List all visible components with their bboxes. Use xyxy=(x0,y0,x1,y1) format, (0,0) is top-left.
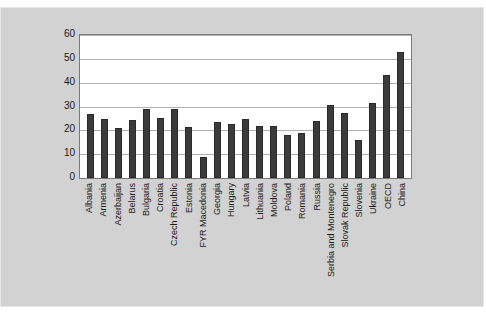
x-axis-tick-label: FYR Macedonia xyxy=(198,183,207,248)
x-axis-tick-label: Moldova xyxy=(269,183,278,217)
x-axis-tick-label: Russia xyxy=(312,183,321,211)
x-axis-tick-label: Ukraine xyxy=(369,183,378,214)
bar-slot xyxy=(281,35,295,178)
bar-slot xyxy=(154,35,168,178)
x-axis-tick-label: Slovenia xyxy=(355,183,364,218)
bar xyxy=(87,114,94,178)
x-axis-tick-label: Czech Republic xyxy=(170,183,179,246)
bar xyxy=(200,157,207,178)
x-axis-tick-label: OECD xyxy=(383,183,392,209)
bar-series xyxy=(80,35,411,178)
x-axis-tick-label: Albania xyxy=(85,183,94,213)
bar-slot xyxy=(125,35,139,178)
x-axis-tick-label: China xyxy=(397,183,406,207)
bar-slot xyxy=(323,35,337,178)
x-axis-tick-label: Hungary xyxy=(227,183,236,217)
x-axis-tick: Romania xyxy=(295,181,309,301)
y-axis-tick-label: 60 xyxy=(64,29,75,39)
x-axis-tick: Moldova xyxy=(267,181,281,301)
x-axis-tick: Latvia xyxy=(238,181,252,301)
x-axis-tick: Czech Republic xyxy=(167,181,181,301)
bar xyxy=(115,128,122,178)
x-axis-tick: Lithuania xyxy=(253,181,267,301)
bar-slot xyxy=(196,35,210,178)
bar xyxy=(101,119,108,178)
x-axis-tick-label: Bulgaria xyxy=(141,183,150,216)
bar xyxy=(157,118,164,178)
bar-slot xyxy=(140,35,154,178)
y-axis: 0102030405060 xyxy=(41,34,75,179)
bar xyxy=(129,120,136,178)
bar-slot xyxy=(224,35,238,178)
chart-figure: 0102030405060 AlbaniaArmeniaAzerbaijanBe… xyxy=(0,7,484,307)
x-axis: AlbaniaArmeniaAzerbaijanBelarusBulgariaC… xyxy=(79,181,412,301)
x-axis-tick: China xyxy=(395,181,409,301)
plot-area xyxy=(79,34,412,179)
bar-slot xyxy=(83,35,97,178)
bar-slot xyxy=(380,35,394,178)
x-axis-tick-label: Azerbaijan xyxy=(113,183,122,226)
x-axis-tick-label: Belarus xyxy=(127,183,136,214)
x-axis-tick: Poland xyxy=(281,181,295,301)
bar-slot xyxy=(111,35,125,178)
x-axis-tick: Croatia xyxy=(153,181,167,301)
x-axis-tick: Belarus xyxy=(125,181,139,301)
x-axis-tick: Armenia xyxy=(96,181,110,301)
bar xyxy=(171,109,178,178)
x-axis-tick-label: Lithuania xyxy=(255,183,264,220)
bar xyxy=(185,127,192,178)
x-axis-tick: Bulgaria xyxy=(139,181,153,301)
bar-slot xyxy=(210,35,224,178)
bar xyxy=(242,119,249,178)
x-axis-tick-label: Croatia xyxy=(156,183,165,212)
bar xyxy=(397,52,404,178)
y-axis-tick-label: 40 xyxy=(64,77,75,87)
x-axis-tick-label: Poland xyxy=(284,183,293,211)
bar-slot xyxy=(394,35,408,178)
x-axis-tick: Ukraine xyxy=(366,181,380,301)
x-axis-tick: Albania xyxy=(82,181,96,301)
bar xyxy=(256,126,263,178)
y-axis-tick-label: 30 xyxy=(64,101,75,111)
bar xyxy=(270,126,277,178)
y-axis-tick-label: 50 xyxy=(64,53,75,63)
bar xyxy=(284,135,291,178)
x-axis-tick: Georgia xyxy=(210,181,224,301)
x-axis-tick-label: Estonia xyxy=(184,183,193,213)
x-axis-tick: OECD xyxy=(381,181,395,301)
bar-slot xyxy=(366,35,380,178)
bar xyxy=(341,113,348,178)
bar-slot xyxy=(238,35,252,178)
bar xyxy=(383,75,390,178)
y-axis-tick-label: 10 xyxy=(64,148,75,158)
x-axis-tick-label: Slovak Republic xyxy=(341,183,350,248)
x-axis-tick: Hungary xyxy=(224,181,238,301)
x-axis-tick: Slovak Republic xyxy=(338,181,352,301)
bar xyxy=(313,121,320,178)
bar xyxy=(298,133,305,178)
bar-slot xyxy=(295,35,309,178)
x-axis-tick-label: Latvia xyxy=(241,183,250,207)
bar-slot xyxy=(267,35,281,178)
bar-slot xyxy=(253,35,267,178)
bar-slot xyxy=(168,35,182,178)
x-axis-tick-label: Romania xyxy=(298,183,307,219)
x-axis-tick: Slovenia xyxy=(352,181,366,301)
bar xyxy=(369,103,376,178)
x-axis-tick-label: Serbia and Montenegro xyxy=(326,183,335,277)
bar-slot xyxy=(309,35,323,178)
x-axis-tick: FYR Macedonia xyxy=(196,181,210,301)
x-axis-tick: Estonia xyxy=(182,181,196,301)
bar xyxy=(228,124,235,178)
x-axis-tick: Serbia and Montenegro xyxy=(324,181,338,301)
y-axis-tick-label: 20 xyxy=(64,124,75,134)
bar-slot xyxy=(182,35,196,178)
x-axis-tick: Azerbaijan xyxy=(110,181,124,301)
bar-slot xyxy=(351,35,365,178)
x-axis-tick-label: Georgia xyxy=(213,183,222,215)
x-axis-tick: Russia xyxy=(310,181,324,301)
y-axis-tick-label: 0 xyxy=(69,172,75,182)
bar xyxy=(214,122,221,178)
x-axis-tick-label: Armenia xyxy=(99,183,108,217)
bar xyxy=(327,105,334,178)
